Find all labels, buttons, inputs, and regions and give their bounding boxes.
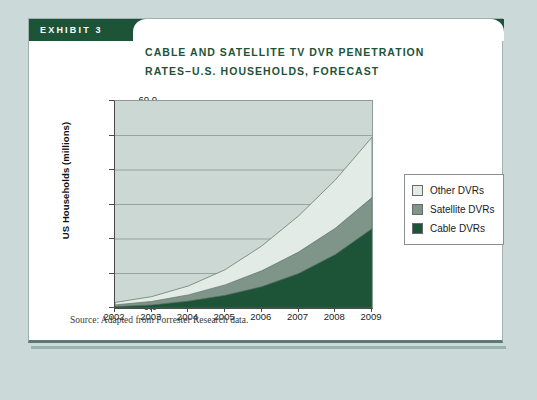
legend-item-other-dvrs: Other DVRs [412,181,494,200]
chart-area: US Households (millions) 0.010.020.030.0… [29,71,504,321]
card-shadow [31,346,506,349]
legend-swatch-other-dvrs [412,185,423,196]
x-tick-label: 2009 [351,312,391,322]
legend-label-other-dvrs: Other DVRs [430,185,484,196]
stacked-area-chart [115,101,372,308]
exhibit-card: EXHIBIT 3 CABLE AND SATELLITE TV DVR PEN… [28,18,503,343]
chart-legend: Other DVRs Satellite DVRs Cable DVRs [404,174,504,245]
title-line-2: RATES–U.S. HOUSEHOLDS, FORECAST [145,62,485,81]
legend-swatch-cable-dvrs [412,223,423,234]
plot-canvas [114,100,373,309]
tab-bar-notch [133,19,504,41]
legend-swatch-satellite-dvrs [412,204,423,215]
x-tick-label: 2008 [314,312,354,322]
legend-label-cable-dvrs: Cable DVRs [430,223,485,234]
legend-item-cable-dvrs: Cable DVRs [412,219,494,238]
exhibit-tab-label: EXHIBIT 3 [29,19,133,41]
page-title: CABLE AND SATELLITE TV DVR PENETRATION R… [145,43,485,81]
x-tick-label: 2007 [278,312,318,322]
series-areas [115,137,372,308]
title-line-1: CABLE AND SATELLITE TV DVR PENETRATION [145,43,485,62]
y-axis-label: US Households (millions) [60,101,71,261]
legend-label-satellite-dvrs: Satellite DVRs [430,204,494,215]
source-note: Source: Adapted from Forrester Research … [70,315,248,325]
legend-item-satellite-dvrs: Satellite DVRs [412,200,494,219]
